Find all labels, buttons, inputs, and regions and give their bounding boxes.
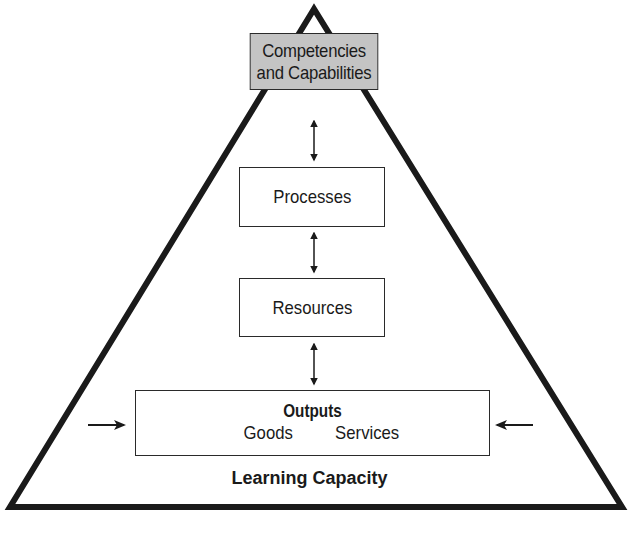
capabilities-label: and Capabilities [257, 62, 372, 84]
competencies-capabilities-box: Competencies and Capabilities [250, 33, 378, 90]
outputs-title: Outputs [283, 401, 342, 421]
resources-box: Resources [239, 278, 385, 337]
processes-label: Processes [273, 186, 351, 208]
competencies-label: Competencies [262, 40, 366, 62]
learning-capacity-label: Learning Capacity [0, 468, 625, 489]
resources-label: Resources [272, 297, 352, 319]
outputs-box: Outputs Goods Services [135, 390, 490, 456]
output-item-goods: Goods [244, 421, 293, 445]
processes-box: Processes [239, 167, 385, 227]
outputs-items: Goods Services [244, 421, 400, 445]
output-item-services: Services [335, 421, 399, 445]
